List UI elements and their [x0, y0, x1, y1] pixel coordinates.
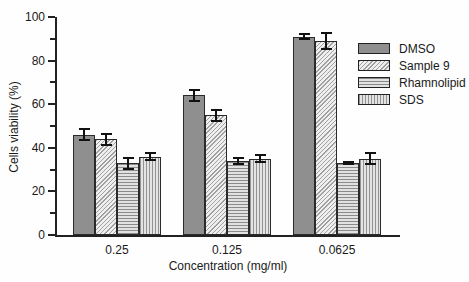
bar-dmso — [73, 135, 95, 235]
error-bar-cap-bottom-sample-9 — [101, 144, 112, 146]
y-tick-label: 80 — [9, 54, 45, 68]
y-tick-label: 60 — [9, 97, 45, 111]
error-bar-cap-bottom-dmso — [299, 38, 310, 40]
x-category-label: 0.0625 — [297, 243, 377, 257]
bar-sample-9 — [95, 139, 117, 235]
error-bar-cap-top-rhamnolipid — [123, 157, 134, 159]
error-bar-cap-bottom-sds — [365, 163, 376, 165]
error-bar-cap-bottom-rhamnolipid — [343, 163, 354, 165]
y-axis-title: Cells viability (%) — [7, 57, 21, 197]
y-tick-label: 0 — [9, 228, 45, 242]
y-major-tick — [48, 147, 55, 149]
y-major-tick — [48, 190, 55, 192]
y-major-tick — [48, 16, 55, 18]
error-bar-cap-top-sds — [145, 152, 156, 154]
x-axis-title: Concentration (mg/ml) — [128, 259, 328, 273]
bar-sds — [139, 157, 161, 235]
y-minor-tick — [50, 169, 55, 171]
error-bar-cap-top-sample-9 — [321, 32, 332, 34]
x-category-label: 0.125 — [187, 243, 267, 257]
legend-swatch-sds — [358, 94, 390, 105]
error-bar-cap-top-sds — [365, 152, 376, 154]
bar-dmso — [183, 95, 205, 235]
bar-sample-9 — [205, 115, 227, 235]
legend-label-dmso: DMSO — [399, 42, 435, 56]
bar-rhamnolipid — [117, 163, 139, 235]
error-bar-cap-bottom-dmso — [189, 100, 200, 102]
y-major-tick — [48, 103, 55, 105]
error-bar-cap-top-sample-9 — [101, 133, 112, 135]
bar-chart-figure: Cells viability (%) 0204060801000.250.12… — [0, 0, 469, 282]
legend-label-sds: SDS — [399, 93, 424, 107]
legend-swatch-sample-9 — [358, 60, 390, 71]
y-minor-tick — [50, 125, 55, 127]
legend: DMSOSample 9RhamnolipidSDS — [358, 40, 466, 108]
bar-rhamnolipid — [337, 163, 359, 235]
legend-label-sample-9: Sample 9 — [399, 59, 450, 73]
legend-swatch-rhamnolipid — [358, 77, 390, 88]
plot-area: 0204060801000.250.1250.0625 — [55, 17, 400, 237]
legend-label-rhamnolipid: Rhamnolipid — [399, 76, 466, 90]
y-major-tick — [48, 234, 55, 236]
error-bar-cap-bottom-sample-9 — [321, 48, 332, 50]
bar-sds — [249, 159, 271, 235]
y-tick-label: 40 — [9, 141, 45, 155]
error-bar-cap-bottom-rhamnolipid — [123, 168, 134, 170]
error-bar-cap-bottom-sds — [145, 159, 156, 161]
legend-swatch-dmso — [358, 43, 390, 54]
error-bar-cap-bottom-rhamnolipid — [233, 163, 244, 165]
error-bar-cap-bottom-dmso — [79, 139, 90, 141]
x-category-label: 0.25 — [77, 243, 157, 257]
error-bar-cap-top-sample-9 — [211, 109, 222, 111]
y-major-tick — [48, 60, 55, 62]
legend-item-sample-9: Sample 9 — [358, 57, 466, 74]
error-bar-cap-top-dmso — [299, 33, 310, 35]
error-bar-cap-top-dmso — [189, 89, 200, 91]
error-bar-cap-top-sds — [255, 154, 266, 156]
legend-item-sds: SDS — [358, 91, 466, 108]
y-tick-label: 100 — [9, 10, 45, 24]
error-bar-cap-bottom-sample-9 — [211, 120, 222, 122]
error-bar-cap-top-dmso — [79, 128, 90, 130]
error-bar-cap-top-rhamnolipid — [233, 157, 244, 159]
bar-dmso — [293, 37, 315, 235]
y-tick-label: 20 — [9, 184, 45, 198]
y-minor-tick — [50, 38, 55, 40]
y-minor-tick — [50, 212, 55, 214]
bar-rhamnolipid — [227, 161, 249, 235]
legend-item-rhamnolipid: Rhamnolipid — [358, 74, 466, 91]
y-minor-tick — [50, 81, 55, 83]
bar-sample-9 — [315, 41, 337, 235]
legend-item-dmso: DMSO — [358, 40, 466, 57]
bar-sds — [359, 159, 381, 235]
error-bar-cap-bottom-sds — [255, 161, 266, 163]
